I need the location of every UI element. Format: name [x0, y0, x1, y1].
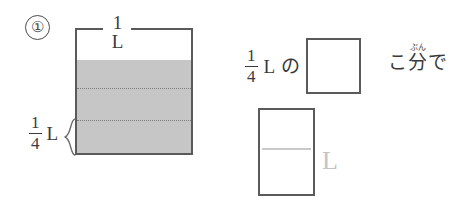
- kanji-bun-with-furigana: ぶん 分: [408, 44, 427, 72]
- beaker-liquid-fill: [77, 60, 191, 153]
- unit-liter-left: L: [47, 124, 59, 143]
- fraction-denominator: 4: [29, 135, 42, 153]
- answer-fraction-box[interactable]: [258, 108, 315, 196]
- fraction-numerator: 1: [245, 47, 258, 65]
- problem-number: ①: [25, 15, 50, 40]
- unit-liter-answer: L: [322, 148, 338, 174]
- fraction-one-quarter-sentence: 1 4: [245, 47, 258, 86]
- particle-no: の: [281, 57, 300, 76]
- unit-liter-sentence: L: [264, 57, 276, 76]
- quarter-brace: [63, 118, 76, 156]
- furigana-bun: ぶん: [410, 44, 426, 52]
- answer-fraction-bar: [262, 148, 311, 150]
- division-line-upper: [77, 88, 191, 89]
- count-answer-box[interactable]: [306, 38, 361, 94]
- fraction-numerator: 1: [29, 114, 42, 132]
- counter-ko: こ: [388, 53, 407, 72]
- quarter-liter-label: 1 4 L: [29, 114, 58, 153]
- sentence-tail: こ ぶん 分 で: [388, 44, 447, 72]
- question-sentence: 1 4 L の: [245, 38, 361, 94]
- fraction-one-quarter-left: 1 4: [29, 114, 42, 153]
- particle-de: で: [428, 53, 447, 72]
- fraction-denominator: 4: [245, 68, 258, 86]
- kanji-bun: 分: [408, 53, 427, 72]
- worksheet-canvas: ① 1 L 1 4 L 1 4 L の こ ぶん 分: [0, 0, 460, 211]
- division-line-lower: [77, 120, 191, 121]
